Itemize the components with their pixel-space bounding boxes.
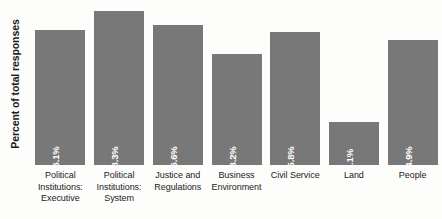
x-axis-tick-label-line: Institutions: — [90, 182, 149, 194]
bar-group: 5.1% — [329, 0, 379, 166]
x-axis-tick-label: BusinessEnvironment — [207, 170, 266, 193]
bar-chart: Percent of total responses 16.1%18.3%16.… — [0, 0, 442, 219]
x-axis-tick-label: Land — [325, 170, 384, 182]
x-axis-tick-label-line: Executive — [31, 193, 90, 205]
bar-group: 18.3% — [94, 0, 144, 166]
bar-group: 16.1% — [35, 0, 85, 166]
y-axis-title-label: Percent of total responses — [9, 19, 21, 148]
x-axis-tick-label-line: Justice and — [148, 170, 207, 182]
x-axis-tick-label-line: System — [90, 193, 149, 205]
x-axis-tick-label-line: Political — [31, 170, 90, 182]
bar-group: 15.8% — [270, 0, 320, 166]
x-axis-tick-label: PoliticalInstitutions:Executive — [31, 170, 90, 205]
bar[interactable]: 16.1% — [35, 30, 85, 165]
x-axis-tick-label: People — [383, 170, 442, 182]
bar[interactable]: 13.2% — [212, 54, 262, 165]
x-axis-tick-label-line: Political — [90, 170, 149, 182]
x-axis-tick-label: Civil Service — [266, 170, 325, 182]
bar[interactable]: 5.1% — [329, 122, 379, 165]
x-axis-tick-label-line: Environment — [207, 182, 266, 194]
bar-group: 16.6% — [153, 0, 203, 166]
x-axis-tick-label-line: Regulations — [148, 182, 207, 194]
x-axis-tick-label-line: Business — [207, 170, 266, 182]
x-axis-tick-label: PoliticalInstitutions:System — [90, 170, 149, 205]
bar[interactable]: 18.3% — [94, 11, 144, 165]
x-axis-labels: PoliticalInstitutions:ExecutivePolitical… — [31, 167, 442, 219]
x-axis-tick-label-line: Institutions: — [31, 182, 90, 194]
bar-group: 14.9% — [388, 0, 438, 166]
bar-group: 13.2% — [212, 0, 262, 166]
plot-area: 16.1%18.3%16.6%13.2%15.8%5.1%14.9% — [31, 0, 442, 166]
bar[interactable]: 16.6% — [153, 25, 203, 165]
x-axis-tick-label-line: Civil Service — [266, 170, 325, 182]
x-axis-tick-label-line: People — [383, 170, 442, 182]
x-axis-tick-label: Justice andRegulations — [148, 170, 207, 193]
bar[interactable]: 15.8% — [270, 32, 320, 165]
bar[interactable]: 14.9% — [388, 40, 438, 165]
x-axis-tick-label-line: Land — [325, 170, 384, 182]
y-axis-title: Percent of total responses — [0, 0, 30, 168]
